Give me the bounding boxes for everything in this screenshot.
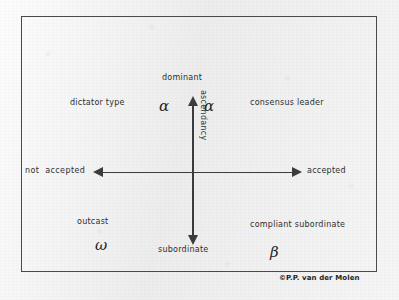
symbol-alpha-consensus: α: [204, 97, 214, 115]
arrow-up-icon: [188, 96, 198, 106]
arrow-left-icon: [93, 167, 103, 177]
symbol-omega-outcast: ω: [95, 236, 107, 254]
arrow-down-icon: [188, 235, 198, 245]
acceptance-axis-line: [102, 172, 294, 174]
symbol-beta-compliant: β: [270, 243, 279, 261]
quadrant-label-compliant-subordinate: compliant subordinate: [250, 219, 345, 230]
quadrant-label-consensus-leader: consensus leader: [250, 97, 324, 108]
plot-area: dominant subordinate not accepted accept…: [22, 17, 376, 271]
axis-title-ascendancy: ascendancy: [198, 80, 209, 150]
axis-label-not-accepted: not accepted: [25, 166, 85, 177]
diagram-frame: dominant subordinate not accepted accept…: [21, 16, 377, 272]
arrow-right-icon: [292, 167, 302, 177]
axis-label-subordinate: subordinate: [158, 245, 208, 256]
copyright-notice: ©P.P. van der Molen: [279, 274, 360, 282]
axis-label-accepted: accepted: [307, 166, 346, 177]
quadrant-label-outcast: outcast: [77, 216, 108, 227]
symbol-alpha-dictator: α: [159, 97, 169, 115]
quadrant-label-dictator-type: dictator type: [70, 97, 125, 108]
axis-label-dominant: dominant: [162, 73, 202, 84]
